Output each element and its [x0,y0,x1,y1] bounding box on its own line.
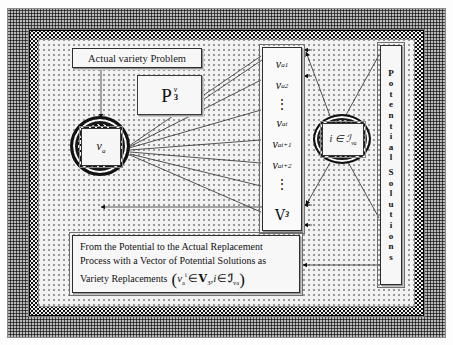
ps-letter: P [388,68,394,79]
vector-cell: va1 [263,54,301,75]
diagram-canvas: Actual variety Problem P v З va va1 va2 … [0,0,453,345]
p-subscript: З [174,94,178,102]
caption-line-3: Variety Replacements [80,272,167,286]
ps-letter: S [388,167,393,178]
p-symbol: P [161,86,172,105]
vector-cell: vai [263,113,301,134]
vector-ellipsis: ⋮ [276,176,289,193]
ps-letter: i [390,131,393,142]
vector-cell: vai+1 [263,134,301,155]
caption-line-3-row: Variety Replacements (vai ∈ VЗ,i ∈ ℐva) [80,268,292,291]
ps-letter: o [389,231,394,242]
replacement-formula: (vai ∈ VЗ,i ∈ ℐva) [171,268,244,291]
vector-ellipsis: ⋮ [276,96,289,113]
index-set-value-box: i ∈ ℐva [322,123,364,156]
caption-line-2: Process with a Vector of Potential Solut… [80,254,292,268]
caption-box: From the Potential to the Actual Replace… [72,235,300,293]
ps-letter: l [390,152,393,163]
ps-letter: o [389,178,394,189]
ps-letter: n [388,110,393,121]
ps-letter: l [390,188,393,199]
actual-variety-node: va [70,116,130,176]
ps-letter: s [389,252,393,263]
ps-letter: i [390,220,393,231]
ps-letter: e [389,99,393,110]
ps-letter: t [390,89,393,100]
actual-variety-value-box: va [81,128,121,166]
vector-cell: vai+2 [263,155,301,176]
p-indices: v З [174,86,178,102]
vector-set-symbol: VЗ [263,204,301,225]
caption-line-1: From the Potential to the Actual Replace… [80,240,292,254]
actual-variety-problem-label: Actual variety Problem [72,48,202,68]
ps-letter: u [388,199,393,210]
ps-letter: t [390,121,393,132]
ps-letter: n [388,241,393,252]
index-set-node: i ∈ ℐva [313,114,371,164]
potential-solutions-strip: PotentialSolutions [380,45,402,285]
label-text: Actual variety Problem [88,53,186,64]
vector-cell: va2 [263,75,301,96]
index-set-expression: i ∈ ℐva [330,133,357,146]
potential-solutions-vector-column: va1 va2 ⋮ vai vai+1 vai+2 ⋮ VЗ [262,47,302,231]
ps-letter: o [389,78,394,89]
ps-letter: a [389,142,394,153]
ps-letter: t [390,209,393,220]
potential-solutions-vertical-text: PotentialSolutions [388,68,394,263]
left-node-symbol: va [97,139,106,155]
potential-operator-box: P v З [137,75,202,115]
